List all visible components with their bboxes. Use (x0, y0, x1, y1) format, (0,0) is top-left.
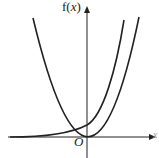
origin-label: O (74, 134, 83, 150)
parabola-curve (33, 17, 139, 137)
y-axis-arrow-icon (84, 6, 90, 13)
y-label-prefix: f( (62, 0, 71, 14)
x-axis-label: x (153, 129, 157, 140)
y-label-suffix: ) (76, 0, 80, 14)
y-axis-label: f(x) (62, 0, 81, 15)
